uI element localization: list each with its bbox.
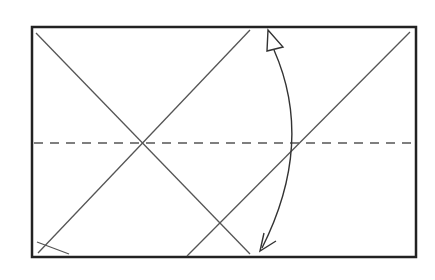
crease-line-diag-up-right — [187, 32, 410, 256]
diagram-canvas — [0, 0, 435, 280]
fold-arrow-curve — [262, 50, 292, 248]
fold-diagram — [0, 0, 435, 280]
crease-lines — [36, 30, 410, 256]
hollow-triangle-arrowhead-icon — [267, 30, 283, 51]
paper-frame — [32, 27, 416, 257]
fold-arrow — [260, 30, 292, 251]
crease-line-diag-up-left — [38, 30, 250, 253]
crease-line-corner-small — [37, 242, 69, 254]
